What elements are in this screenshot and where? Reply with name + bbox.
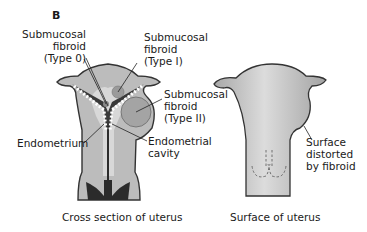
label-type-0-fibroid: Submucosal fibroid (Type 0) [14,28,86,64]
caption-surface: Surface of uterus [230,211,320,223]
label-surface-distorted: Surface distorted by fibroid [306,136,356,172]
caption-cross-section: Cross section of uterus [62,211,182,223]
label-type-2-fibroid: Submucosal fibroid (Type II) [164,88,228,124]
label-endometrial-cavity: Endometrial cavity [148,135,212,159]
panel-label: B [52,9,60,22]
label-endometrium: Endometrium [17,137,88,149]
surface-figure [214,64,326,196]
label-type-1-fibroid: Submucosal fibroid (Type I) [144,31,208,67]
cross-section-figure [57,58,162,200]
